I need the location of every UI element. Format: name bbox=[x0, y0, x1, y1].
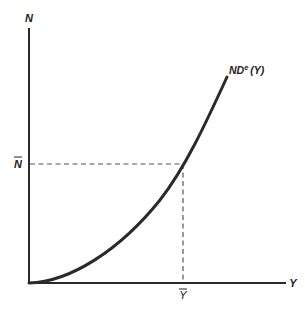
n-bar-text: N bbox=[14, 158, 23, 170]
labor-demand-diagram: N Y N Y NDe(Y) bbox=[0, 0, 305, 309]
y-bar-label: Y bbox=[179, 289, 187, 301]
axis-label-y: Y bbox=[289, 277, 298, 289]
axis-label-n: N bbox=[25, 12, 34, 24]
y-bar-text: Y bbox=[179, 289, 187, 301]
nde-label-main: ND bbox=[229, 64, 245, 76]
nde-label-argument: (Y) bbox=[250, 64, 265, 76]
nde-curve bbox=[29, 77, 227, 283]
nde-curve-label: NDe(Y) bbox=[229, 63, 265, 76]
nde-label-superscript: e bbox=[244, 63, 248, 72]
n-bar-label: N bbox=[14, 157, 23, 170]
